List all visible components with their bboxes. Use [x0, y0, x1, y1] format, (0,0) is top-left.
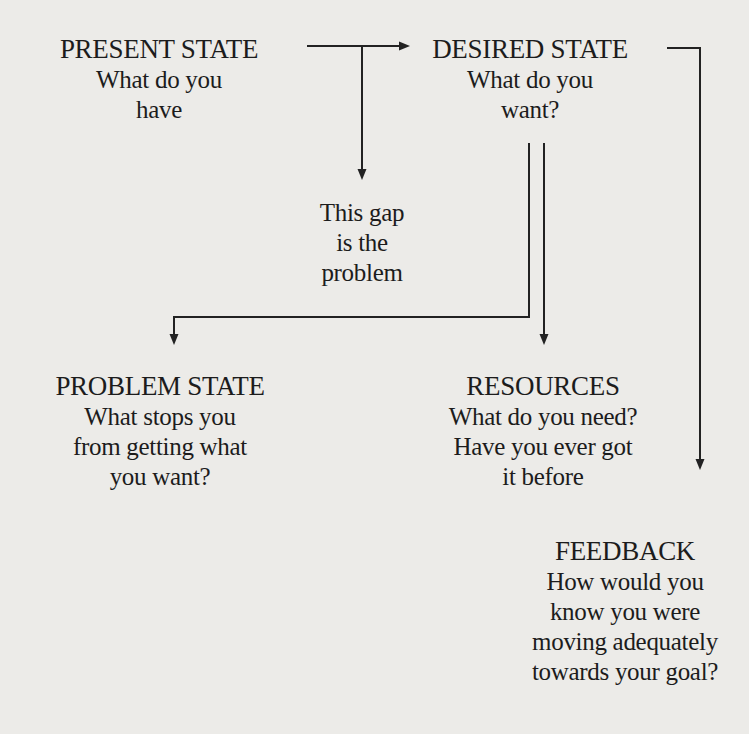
- node-text: What do you need?: [449, 402, 638, 432]
- node-problem-state: PROBLEM STATE What stops you from gettin…: [55, 370, 264, 492]
- node-text: want?: [432, 95, 628, 125]
- node-text: know you were: [532, 597, 718, 627]
- node-title: DESIRED STATE: [432, 33, 628, 65]
- node-text: it before: [449, 462, 638, 492]
- node-title: PRESENT STATE: [60, 33, 258, 65]
- node-text: Have you ever got: [449, 432, 638, 462]
- node-gap: This gap is the problem: [320, 198, 404, 288]
- node-text: This gap: [320, 198, 404, 228]
- node-present-state: PRESENT STATE What do you have: [60, 33, 258, 125]
- node-text: What stops you: [55, 402, 264, 432]
- node-text: have: [60, 95, 258, 125]
- node-title: PROBLEM STATE: [55, 370, 264, 402]
- arrowhead-down-icon: [696, 459, 705, 470]
- node-text: What do you: [60, 65, 258, 95]
- arrowhead-down-icon: [358, 169, 367, 180]
- arrowhead-right-icon: [399, 42, 410, 51]
- arrow-desired-to-feedback: [667, 48, 700, 462]
- arrowhead-down-icon: [540, 334, 549, 345]
- node-text: problem: [320, 258, 404, 288]
- node-text: you want?: [55, 462, 264, 492]
- node-text: from getting what: [55, 432, 264, 462]
- arrowhead-down-icon: [170, 334, 179, 345]
- node-feedback: FEEDBACK How would you know you were mov…: [532, 535, 718, 687]
- node-text: towards your goal?: [532, 657, 718, 687]
- node-resources: RESOURCES What do you need? Have you eve…: [449, 370, 638, 492]
- node-title: RESOURCES: [449, 370, 638, 402]
- node-text: moving adequately: [532, 627, 718, 657]
- node-text: What do you: [432, 65, 628, 95]
- node-desired-state: DESIRED STATE What do you want?: [432, 33, 628, 125]
- node-title: FEEDBACK: [532, 535, 718, 567]
- node-text: How would you: [532, 567, 718, 597]
- node-text: is the: [320, 228, 404, 258]
